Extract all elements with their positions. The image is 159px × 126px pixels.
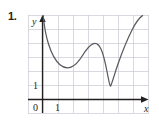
curve-path <box>43 16 142 87</box>
grid-lines <box>28 15 149 114</box>
x-tick-label-1: 1 <box>55 102 60 113</box>
figure-container: 1. <box>0 0 159 126</box>
graph-plot: y x 1 1 0 <box>0 0 159 126</box>
y-tick-label-1: 1 <box>33 80 38 91</box>
x-axis-label: x <box>143 103 149 114</box>
y-axis-label: y <box>31 16 37 27</box>
origin-label: 0 <box>33 102 38 113</box>
